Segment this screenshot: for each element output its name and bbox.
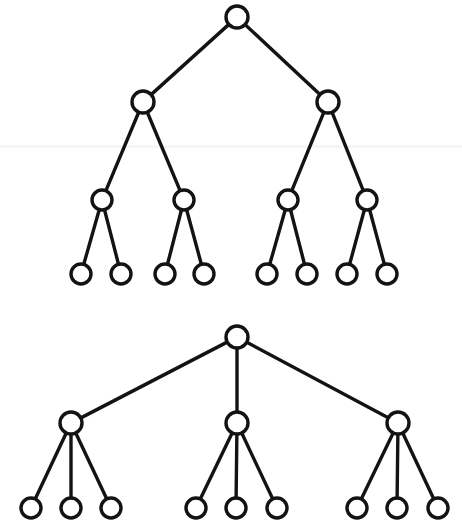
tree-leaf-node <box>387 498 407 518</box>
tree-edge <box>236 432 237 499</box>
tree-root-node <box>226 6 248 28</box>
tree-leaf-node <box>101 498 121 518</box>
tree-internal-node <box>132 91 154 113</box>
tree-root-node <box>226 326 248 348</box>
scan-artifact-layer <box>0 145 462 148</box>
tree-leaf-node <box>297 264 317 284</box>
tree-leaf-node <box>71 264 91 284</box>
tree-internal-node <box>92 190 112 210</box>
tree-leaf-node <box>186 498 206 518</box>
tree-leaf-node <box>257 264 277 284</box>
tree-leaf-node <box>347 498 367 518</box>
tree-leaf-node <box>21 498 41 518</box>
tree-leaf-node <box>377 264 397 284</box>
tree-internal-node <box>174 190 194 210</box>
tree-leaf-node <box>337 264 357 284</box>
tree-internal-node <box>357 190 377 210</box>
tree-internal-node <box>60 412 82 434</box>
tree-internal-node <box>226 412 248 434</box>
figure-root <box>0 0 462 532</box>
tree-leaf-node <box>155 264 175 284</box>
tree-edge <box>397 432 398 499</box>
tree-leaf-node <box>428 498 448 518</box>
tree-internal-node <box>387 412 409 434</box>
scan-artifact-line <box>0 145 462 148</box>
tree-leaf-node <box>111 264 131 284</box>
tree-leaf-node <box>226 498 246 518</box>
tree-leaf-node <box>267 498 287 518</box>
tree-leaf-node <box>194 264 214 284</box>
tree-internal-node <box>317 91 339 113</box>
tree-internal-node <box>278 190 298 210</box>
tree-leaf-node <box>61 498 81 518</box>
tree-diagram-canvas <box>0 0 462 532</box>
